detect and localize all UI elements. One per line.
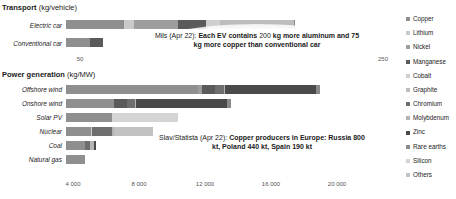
power-callout: Slav/Statista (Apr 22): Copper producers… xyxy=(156,133,368,151)
bar-segment-copper[interactable] xyxy=(66,141,85,150)
power-tick-12000: 12 000 xyxy=(185,181,225,187)
bar-segment-manganese[interactable] xyxy=(114,99,127,108)
legend-item-graphite[interactable]: Graphite xyxy=(406,83,456,97)
bar-segment-zinc[interactable] xyxy=(94,141,96,150)
bar-segment-silicon[interactable] xyxy=(112,113,178,122)
bar-segment-copper[interactable] xyxy=(66,127,91,136)
bar-segment-others[interactable] xyxy=(114,127,154,136)
power-tick-16000: 16 000 xyxy=(251,181,291,187)
bar-segment-rare-earths[interactable] xyxy=(227,99,231,108)
legend-item-label: Zinc xyxy=(413,129,425,135)
bar-segment-copper[interactable] xyxy=(66,113,112,122)
power-title-text: Power generation xyxy=(2,70,65,79)
cat-label-conventional-car: Conventional car xyxy=(0,40,62,47)
transport-unit-text: (kg/vehicle) xyxy=(39,3,77,12)
legend-swatch-icon xyxy=(406,159,410,163)
legend-item-zinc[interactable]: Zinc xyxy=(406,126,456,140)
power-unit-text: (kg/MW) xyxy=(67,70,95,79)
legend-item-manganese[interactable]: Manganese xyxy=(406,55,456,69)
bar-segment-zinc[interactable] xyxy=(225,85,316,94)
power-tick-4000: 4 000 xyxy=(53,181,93,187)
bar-segment-lithium[interactable] xyxy=(124,20,134,29)
legend-swatch-icon xyxy=(406,17,410,21)
legend-item-lithium[interactable]: Lithium xyxy=(406,26,456,40)
bar-segment-rare-earths[interactable] xyxy=(316,85,320,94)
legend-item-label: Rare earths xyxy=(413,144,446,150)
legend-item-label: Cobalt xyxy=(413,73,431,79)
cat-label-onshore-wind: Onshore wind xyxy=(0,100,62,107)
bar-row-solar-pv[interactable] xyxy=(66,113,396,122)
bar-row-onshore-wind[interactable] xyxy=(66,99,396,108)
legend-item-copper[interactable]: Copper xyxy=(406,12,456,26)
power-callout-bold1: Copper producers in Europe: Russia 800 k… xyxy=(212,134,365,150)
bar-segment-chromium[interactable] xyxy=(92,127,112,136)
legend-item-label: Graphite xyxy=(413,87,437,93)
legend-swatch-icon xyxy=(406,88,410,92)
cat-label-solar-pv: Solar PV xyxy=(0,114,62,121)
bar-segment-chromium[interactable] xyxy=(215,85,224,94)
transport-callout-plain1: 200 xyxy=(259,32,271,39)
cat-label-electric-car: Electric car xyxy=(0,22,62,29)
transport-callout-bold1: Each EV contains xyxy=(198,32,259,39)
legend-swatch-icon xyxy=(406,102,410,106)
cat-label-offshore-wind: Offshore wind xyxy=(0,86,62,93)
legend-item-label: Copper xyxy=(413,16,434,22)
legend-item-label: Molybdenum xyxy=(413,115,449,121)
bar-segment-chromium[interactable] xyxy=(127,99,135,108)
bar-segment-manganese[interactable] xyxy=(202,85,215,94)
legend-swatch-icon xyxy=(406,173,410,177)
chart-root: Transport (kg/vehicle) Electric car Conv… xyxy=(0,0,456,199)
legend-item-cobalt[interactable]: Cobalt xyxy=(406,69,456,83)
transport-callout-source: Mils (Apr 22): xyxy=(155,32,199,39)
legend-swatch-icon xyxy=(406,145,410,149)
bar-segment-nickel[interactable] xyxy=(134,20,178,29)
bar-segment-copper[interactable] xyxy=(66,85,198,94)
transport-panel-title: Transport (kg/vehicle) xyxy=(2,3,77,12)
cat-label-nuclear: Nuclear xyxy=(0,128,62,135)
legend-swatch-icon xyxy=(406,74,410,78)
legend: CopperLithiumNickelManganeseCobaltGraphi… xyxy=(406,12,456,182)
bar-segment-manganese[interactable] xyxy=(90,38,103,47)
transport-tick-50: 50 xyxy=(60,56,100,62)
legend-item-chromium[interactable]: Chromium xyxy=(406,97,456,111)
bar-segment-zinc[interactable] xyxy=(136,99,227,108)
legend-swatch-icon xyxy=(406,31,410,35)
legend-item-rare-earths[interactable]: Rare earths xyxy=(406,140,456,154)
legend-item-label: Lithium xyxy=(413,30,433,36)
legend-item-others[interactable]: Others xyxy=(406,168,456,182)
transport-callout: Mils (Apr 22): Each EV contains 200 kg m… xyxy=(152,31,362,49)
legend-swatch-icon xyxy=(406,45,410,49)
power-panel-title: Power generation (kg/MW) xyxy=(2,70,95,79)
transport-title-text: Transport xyxy=(2,3,37,12)
power-tick-8000: 8 000 xyxy=(119,181,159,187)
power-tick-20000: 20 000 xyxy=(317,181,357,187)
legend-swatch-icon xyxy=(406,116,410,120)
transport-tick-250: 250 xyxy=(363,56,403,62)
legend-item-molybdenum[interactable]: Molybdenum xyxy=(406,111,456,125)
legend-item-label: Silicon xyxy=(413,158,432,164)
legend-item-label: Chromium xyxy=(413,101,442,107)
legend-item-silicon[interactable]: Silicon xyxy=(406,154,456,168)
bar-segment-copper[interactable] xyxy=(66,38,90,47)
legend-item-nickel[interactable]: Nickel xyxy=(406,40,456,54)
power-callout-source: Slav/Statista (Apr 22): xyxy=(159,134,229,141)
cat-label-natural-gas: Natural gas xyxy=(0,156,62,163)
legend-item-label: Nickel xyxy=(413,44,430,50)
legend-swatch-icon xyxy=(406,60,410,64)
bar-row-offshore-wind[interactable] xyxy=(66,85,396,94)
bar-segment-copper[interactable] xyxy=(66,155,85,164)
bar-segment-copper[interactable] xyxy=(66,20,124,29)
bar-segment-copper[interactable] xyxy=(66,99,114,108)
legend-swatch-icon xyxy=(406,131,410,135)
legend-item-label: Others xyxy=(413,172,432,178)
cat-label-coal: Coal xyxy=(0,142,62,149)
legend-item-label: Manganese xyxy=(413,59,446,65)
